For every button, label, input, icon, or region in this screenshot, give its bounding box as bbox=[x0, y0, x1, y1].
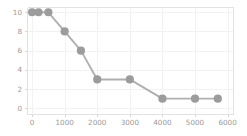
data-point-marker bbox=[214, 95, 222, 103]
series-line-series-1 bbox=[32, 12, 218, 98]
data-point-marker bbox=[61, 27, 69, 35]
x-axis-tick-label: 5000 bbox=[186, 118, 205, 127]
line-chart: 0246810 0100020003000400050006000 bbox=[0, 0, 247, 136]
data-point-marker bbox=[158, 95, 166, 103]
data-point-marker bbox=[44, 8, 52, 16]
gridlines-horizontal bbox=[27, 13, 233, 109]
x-axis-tick-labels: 0100020003000400050006000 bbox=[30, 118, 237, 127]
y-axis-tick-label: 8 bbox=[17, 27, 22, 36]
gridlines-vertical bbox=[33, 7, 229, 114]
y-axis-tick-label: 0 bbox=[17, 104, 22, 113]
x-axis-tick-label: 0 bbox=[30, 118, 35, 127]
data-point-marker bbox=[126, 75, 134, 83]
series-line bbox=[32, 12, 218, 98]
y-axis-tick-labels: 0246810 bbox=[13, 8, 23, 113]
x-axis-tick-label: 3000 bbox=[121, 118, 140, 127]
x-axis-tick-label: 6000 bbox=[218, 118, 237, 127]
x-axis-tick-label: 4000 bbox=[153, 118, 172, 127]
x-axis-tick-label: 1000 bbox=[55, 118, 74, 127]
y-axis-tick-label: 2 bbox=[17, 85, 22, 94]
y-axis-tick-label: 6 bbox=[17, 46, 22, 55]
y-axis-tick-label: 10 bbox=[13, 8, 23, 17]
chart-plot-area: 0246810 0100020003000400050006000 bbox=[0, 0, 247, 136]
x-axis-tick-label: 2000 bbox=[88, 118, 107, 127]
y-axis-tick-label: 4 bbox=[17, 65, 22, 74]
data-point-marker bbox=[34, 8, 42, 16]
data-point-marker bbox=[93, 75, 101, 83]
data-point-marker bbox=[77, 47, 85, 55]
data-point-marker bbox=[191, 95, 199, 103]
